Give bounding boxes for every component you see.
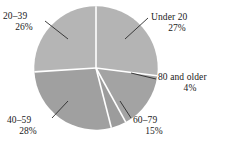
pie-label-40-59-name: 40–59 [7,115,49,126]
pie-label-20-39-percent: 26% [3,22,45,33]
pie-label-20-39-name: 20–39 [3,11,45,22]
pie-label-under-20-name: Under 20 [151,12,203,23]
pie-chart: 20–39 26% Under 20 27% 80 and older 4% 4… [0,0,225,149]
pie-label-under-20: Under 20 27% [151,12,203,34]
pie-label-60-79-percent: 15% [133,126,175,137]
pie-label-80-and-older-percent: 4% [158,83,222,94]
pie-label-40-59: 40–59 28% [7,115,49,137]
pie-label-20-39: 20–39 26% [3,11,45,33]
pie-label-80-and-older: 80 and older 4% [158,72,222,94]
pie-label-40-59-percent: 28% [7,126,49,137]
pie-label-60-79: 60–79 15% [133,115,175,137]
pie-slice-under-20 [96,6,158,75]
pie-label-under-20-percent: 27% [151,23,203,34]
pie-label-80-and-older-name: 80 and older [158,72,222,83]
pie-label-60-79-name: 60–79 [133,115,175,126]
